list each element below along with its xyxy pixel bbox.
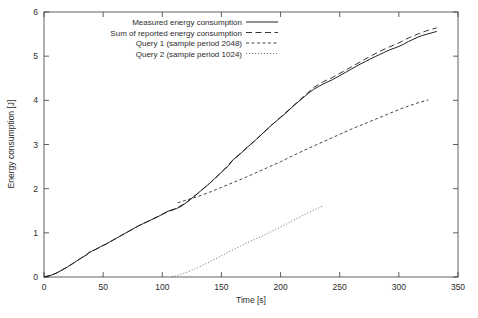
x-tick-label: 0	[42, 282, 47, 292]
series-line-measured-energy-consumption	[44, 31, 437, 277]
legend-label-measured-energy-consumption: Measured energy consumption	[132, 18, 242, 27]
y-tick-label: 0	[33, 272, 38, 282]
series-line-query-1-sample-period-2048	[178, 100, 429, 203]
x-tick-label: 150	[214, 282, 228, 292]
legend-label-sum-of-reported-energy-consumption: Sum of reported energy consumption	[110, 29, 242, 38]
y-tick-label: 1	[33, 228, 38, 238]
x-tick-label: 250	[333, 282, 347, 292]
y-tick-label: 4	[33, 95, 38, 105]
y-tick-label: 5	[33, 51, 38, 61]
series-line-sum-of-reported-energy-consumption	[44, 28, 437, 277]
y-tick-label: 6	[33, 7, 38, 17]
x-tick-label: 350	[451, 282, 465, 292]
series-line-query-2-sample-period-1024	[172, 206, 323, 277]
x-tick-label: 200	[273, 282, 287, 292]
chart-legend: Measured energy consumptionSum of report…	[110, 18, 278, 59]
x-tick-label: 50	[98, 282, 108, 292]
data-series-group	[44, 28, 437, 277]
legend-label-query-2-sample-period-1024: Query 2 (sample period 1024)	[136, 50, 243, 59]
x-axis-label: Time [s]	[236, 295, 266, 305]
y-tick-label: 2	[33, 184, 38, 194]
legend-label-query-1-sample-period-2048: Query 1 (sample period 2048)	[136, 39, 243, 48]
chart-figure: 0123456 050100150200250300350 Time [s] E…	[0, 0, 478, 318]
x-axis: 050100150200250300350	[42, 12, 466, 292]
x-tick-label: 300	[392, 282, 406, 292]
chart-canvas: 0123456 050100150200250300350 Time [s] E…	[0, 0, 478, 318]
x-tick-label: 100	[155, 282, 169, 292]
y-tick-label: 3	[33, 140, 38, 150]
y-axis-label: Energy consumption [J]	[6, 100, 16, 189]
